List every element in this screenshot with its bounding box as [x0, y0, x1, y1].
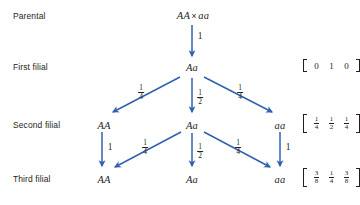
fraction: 1 4	[235, 139, 241, 156]
bracket-right	[356, 168, 360, 187]
fraction: 1 4	[237, 84, 243, 101]
fraction-denominator: 2	[197, 98, 203, 106]
fraction-denominator: 4	[235, 148, 241, 156]
matrix-cells: 0 1 0	[307, 59, 356, 72]
edge-label-f1-to-f2-aa: 1 4	[237, 84, 243, 101]
matrix-cell: 3 8	[309, 170, 324, 186]
edge-label-f2Aa-to-f3aa: 1 4	[235, 139, 241, 156]
genotype-f3-AA: AA	[97, 174, 110, 185]
matrix-cell: 1 4	[309, 116, 324, 132]
edge-label-f2AA-to-f3AA: 1	[108, 143, 113, 153]
edge-value: 1	[108, 143, 113, 153]
fraction: 3 8	[344, 170, 350, 186]
edge-label-parental-to-f1: 1	[198, 32, 203, 42]
edge-label-f1-to-f2-AA: 1 4	[138, 84, 144, 101]
fraction-denominator: 4	[142, 148, 148, 156]
edge-value: 1	[286, 143, 291, 153]
fraction-denominator: 4	[138, 93, 144, 101]
fraction-denominator: 2	[329, 124, 335, 132]
row-label-parental: Parental	[13, 11, 45, 21]
arrow-f2Aa-to-f3AA	[115, 132, 181, 167]
arrow-f1-to-f2-AA	[113, 77, 180, 112]
edge-label-f2aa-to-f3aa: 1	[286, 143, 291, 153]
matrix-cell: 1 4	[339, 116, 354, 132]
probability-vector-second-filial: 1 4 1 2 1 4	[303, 114, 360, 133]
edge-label-f2Aa-to-f3Aa: 1 2	[197, 143, 203, 160]
genotype-f2-AA: AA	[97, 120, 110, 131]
matrix-cell: 3 8	[339, 170, 354, 186]
matrix-cells: 1 4 1 2 1 4	[307, 114, 356, 133]
fraction-denominator: 4	[314, 124, 320, 132]
fraction: 1 4	[142, 139, 148, 156]
genotype-f2-Aa: Aa	[186, 120, 198, 131]
genotype-parental-right: aa	[198, 10, 209, 21]
fraction: 3 8	[314, 170, 320, 186]
fraction-denominator: 2	[197, 152, 203, 160]
matrix-cell: 1 2	[324, 116, 339, 132]
row-label-third-filial: Third filial	[13, 174, 51, 184]
genetics-inheritance-diagram: Parental First filial Second filial Thir…	[0, 0, 360, 205]
genotype-f1-Aa: Aa	[186, 62, 198, 73]
row-label-first-filial: First filial	[13, 62, 48, 72]
fraction: 1 4	[329, 170, 335, 186]
fraction-denominator: 4	[237, 93, 243, 101]
matrix-cells: 3 8 1 4 3 8	[307, 168, 356, 187]
probability-vector-third-filial: 3 8 1 4 3 8	[303, 168, 360, 187]
fraction: 1 4	[314, 116, 320, 132]
fraction: 1 4	[344, 116, 350, 132]
fraction: 1 2	[197, 143, 203, 160]
genotype-parental-left: AA	[177, 10, 190, 21]
cross-symbol: ×	[190, 11, 198, 21]
matrix-cell: 1 4	[324, 170, 339, 186]
genotype-f2-aa: aa	[275, 120, 286, 131]
fraction: 1 2	[329, 116, 335, 132]
bracket-right	[356, 114, 360, 133]
fraction: 1 2	[197, 89, 203, 106]
genotype-parental-cross: AA×aa	[177, 10, 209, 21]
edge-label-f1-to-f2-Aa: 1 2	[197, 89, 203, 106]
matrix-cell: 0	[339, 61, 354, 71]
fraction: 1 4	[138, 84, 144, 101]
fraction-denominator: 4	[344, 124, 350, 132]
fraction-denominator: 8	[314, 178, 320, 186]
bracket-right	[356, 59, 360, 72]
edge-label-f2Aa-to-f3AA: 1 4	[142, 139, 148, 156]
fraction-denominator: 4	[329, 178, 335, 186]
row-label-second-filial: Second filial	[13, 120, 60, 130]
genotype-f3-Aa: Aa	[186, 174, 198, 185]
matrix-cell: 1	[324, 61, 339, 71]
matrix-cell: 0	[309, 61, 324, 71]
genotype-f3-aa: aa	[275, 174, 286, 185]
edge-value: 1	[198, 32, 203, 42]
probability-vector-first-filial: 0 1 0	[303, 59, 360, 72]
fraction-denominator: 8	[344, 178, 350, 186]
